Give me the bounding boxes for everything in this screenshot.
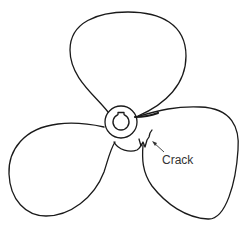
- propeller-diagram: Crack: [0, 0, 246, 233]
- crack-line: [139, 130, 152, 147]
- left-blade: [9, 123, 115, 216]
- top-blade: [70, 12, 186, 116]
- hub-outer-ring: [105, 106, 137, 138]
- hub-boss: [114, 142, 141, 151]
- hub-bore-keyway: [113, 113, 129, 131]
- crack-label: Crack: [162, 153, 194, 167]
